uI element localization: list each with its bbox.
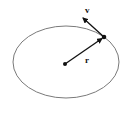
orbit-diagram-svg: r v: [0, 0, 127, 117]
orbiting-body: [102, 35, 107, 40]
label-r: r: [85, 55, 89, 65]
center-point: [63, 62, 67, 66]
position-vector-r: [65, 39, 102, 65]
label-v: v: [85, 5, 90, 15]
orbit-diagram: r v: [0, 0, 127, 117]
velocity-vector-v: [83, 18, 104, 37]
